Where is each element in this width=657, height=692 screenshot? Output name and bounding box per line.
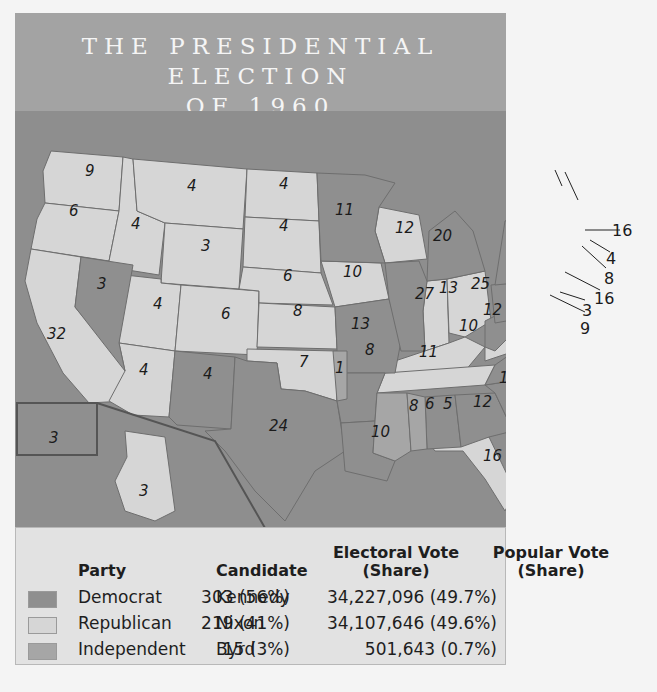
header-electoral: Electoral Vote (Share) bbox=[326, 544, 466, 580]
label-SD: 4 bbox=[279, 217, 289, 235]
popular-vote: 34,107,646 (49.6%) bbox=[327, 613, 497, 633]
label-AZ: 4 bbox=[139, 361, 149, 379]
label-NJ: 16 bbox=[594, 289, 614, 308]
label-IN: 13 bbox=[439, 279, 458, 297]
label-OR: 6 bbox=[69, 202, 79, 220]
label-GA: 12 bbox=[473, 393, 492, 411]
state-WY bbox=[161, 223, 243, 289]
label-LA: 10 bbox=[371, 423, 390, 441]
label-KY: 10 bbox=[459, 317, 478, 335]
title-line-1: THE PRESIDENTIAL ELECTION bbox=[15, 31, 506, 91]
state-NM bbox=[169, 351, 235, 429]
state-AK bbox=[115, 431, 175, 521]
label-NV: 3 bbox=[97, 275, 107, 293]
results-legend: Party Candidate Electoral Vote (Share) P… bbox=[15, 527, 506, 665]
legend-row-independent: Independent Byrd 15 (3%) 501,643 (0.7%) bbox=[16, 637, 505, 663]
header-electoral-line1: Electoral Vote bbox=[326, 544, 466, 562]
label-SC: 10 bbox=[499, 369, 506, 387]
label-NM: 4 bbox=[203, 365, 213, 383]
label-AL: 6 bbox=[425, 395, 435, 413]
label-FL: 16 bbox=[483, 447, 502, 465]
header-electoral-line2: (Share) bbox=[326, 562, 466, 580]
label-TX: 24 bbox=[269, 417, 288, 435]
header-popular: Popular Vote (Share) bbox=[476, 544, 626, 580]
map-title: THE PRESIDENTIAL ELECTION OF 1960 bbox=[15, 13, 506, 111]
label-KS: 8 bbox=[293, 302, 303, 320]
label-OK: 7 bbox=[299, 353, 309, 371]
label-TN: 11 bbox=[419, 343, 438, 361]
label-RI: 4 bbox=[606, 249, 616, 268]
label-OH: 25 bbox=[471, 275, 490, 293]
header-candidate: Candidate bbox=[216, 562, 308, 580]
label-UT: 4 bbox=[153, 295, 163, 313]
header-popular-line1: Popular Vote bbox=[476, 544, 626, 562]
map-svg: 9 6 32 3 4 4 3 4 6 4 4 4 4 6 8 7 1 24 11… bbox=[15, 111, 506, 528]
legend-row-republican: Republican Nixon 219 (41%) 34,107,646 (4… bbox=[16, 611, 505, 637]
label-AR: 8 bbox=[365, 341, 375, 359]
label-DE: 3 bbox=[582, 301, 592, 320]
state-MI bbox=[427, 211, 485, 281]
state-WA bbox=[43, 151, 123, 211]
header-popular-line2: (Share) bbox=[476, 562, 626, 580]
label-IA: 10 bbox=[343, 263, 362, 281]
label-ND: 4 bbox=[279, 175, 289, 193]
label-WI: 12 bbox=[395, 219, 414, 237]
label-ID: 4 bbox=[131, 215, 141, 233]
label-NE: 6 bbox=[283, 267, 293, 285]
us-electoral-map: 9 6 32 3 4 4 3 4 6 4 4 4 4 6 8 7 1 24 11… bbox=[15, 111, 506, 528]
party-name: Republican bbox=[78, 613, 172, 633]
label-WY: 3 bbox=[201, 237, 211, 255]
header-party: Party bbox=[78, 562, 126, 580]
state-NY bbox=[495, 201, 506, 285]
label-AK: 3 bbox=[139, 482, 149, 500]
popular-vote: 34,227,096 (49.7%) bbox=[327, 587, 497, 607]
label-IL: 27 bbox=[415, 285, 435, 303]
independent-swatch bbox=[28, 643, 57, 660]
electoral-vote: 219 (41%) bbox=[201, 613, 290, 633]
legend-row-democrat: Democrat Kennedy 303 (56%) 34,227,096 (4… bbox=[16, 585, 505, 611]
republican-swatch bbox=[28, 617, 57, 634]
label-CO: 6 bbox=[221, 305, 231, 323]
label-AL-dem: 5 bbox=[443, 395, 453, 413]
label-MS: 8 bbox=[409, 397, 419, 415]
label-WV: 12 bbox=[483, 301, 502, 319]
label-MT: 4 bbox=[187, 177, 197, 195]
label-MA: 16 bbox=[612, 221, 632, 240]
electoral-vote: 15 (3%) bbox=[223, 639, 290, 659]
label-MN: 11 bbox=[335, 201, 354, 219]
label-CT: 8 bbox=[604, 269, 614, 288]
label-OK-byrd: 1 bbox=[335, 359, 345, 377]
electoral-vote: 303 (56%) bbox=[201, 587, 290, 607]
label-MI: 20 bbox=[433, 227, 452, 245]
party-name: Democrat bbox=[78, 587, 162, 607]
label-WA: 9 bbox=[85, 162, 95, 180]
label-MO: 13 bbox=[351, 315, 370, 333]
party-name: Independent bbox=[78, 639, 186, 659]
label-HI: 3 bbox=[49, 429, 59, 447]
democrat-swatch bbox=[28, 591, 57, 608]
label-MD: 9 bbox=[580, 319, 590, 338]
label-CA: 32 bbox=[47, 325, 66, 343]
popular-vote: 501,643 (0.7%) bbox=[365, 639, 497, 659]
state-CO bbox=[175, 285, 259, 355]
